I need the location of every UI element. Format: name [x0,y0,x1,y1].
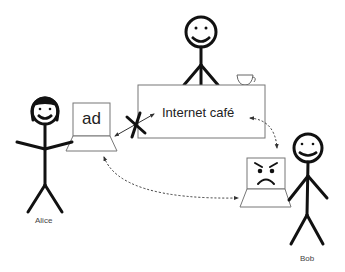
diagram-canvas [0,0,345,272]
coffee-cup-icon [237,75,255,85]
bob-laptop [240,158,291,207]
alice-figure [17,98,72,212]
alice-bob-dotted-arrow [104,157,238,198]
cafe-owner-figure [184,17,218,85]
bob-face [299,143,317,156]
ad-label: ad [82,109,101,129]
bob-figure [289,134,327,244]
bob-label: Bob [300,254,314,263]
cafe-owner-face [192,27,210,42]
alice-label: Alice [35,216,52,225]
internet-cafe-label: Internet café [162,105,234,120]
